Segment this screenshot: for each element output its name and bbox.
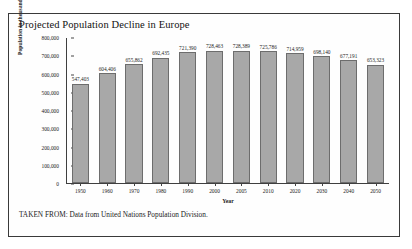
x-tick-label: 2005 [228, 188, 255, 194]
bar [260, 51, 277, 183]
bar-value-label: 728,463 [206, 43, 223, 49]
bar-value-label: 677,191 [340, 53, 357, 59]
x-tick-mark [215, 183, 216, 186]
y-tick-label: 0 [56, 181, 59, 187]
y-tick-label: 800,000 [41, 35, 59, 41]
bar-slot: 721,390 [174, 38, 201, 183]
y-tick-label: 700,000 [41, 53, 59, 59]
bar-slot: 728,463 [201, 38, 228, 183]
y-axis-label: Population in thousands [17, 0, 23, 74]
x-tick-mark [268, 183, 269, 186]
bar-value-label: 604,406 [99, 66, 116, 72]
y-tick-label: 100,000 [41, 163, 59, 169]
bar [313, 56, 330, 183]
bar [179, 52, 196, 183]
bar [286, 53, 303, 183]
x-tick-label: 2010 [255, 188, 282, 194]
x-tick-label: 2040 [335, 188, 362, 194]
bar-slot: 655,862 [121, 38, 148, 183]
bar [233, 51, 250, 183]
x-tick-label: 2000 [201, 188, 228, 194]
figure-frame: Projected Population Decline in Europe P… [8, 13, 400, 237]
bar-slot: 604,406 [94, 38, 121, 183]
axes: 547,403604,406655,862692,435721,390728,4… [66, 38, 389, 184]
bar-value-label: 728,389 [233, 43, 250, 49]
bar-value-label: 725,786 [260, 44, 277, 50]
bar-slot: 653,323 [362, 38, 389, 183]
bar [125, 64, 142, 183]
bar-slot: 725,786 [255, 38, 282, 183]
bar-value-label: 698,140 [313, 49, 330, 55]
y-tick-label: 600,000 [41, 72, 59, 78]
bar [72, 84, 89, 183]
y-tick-label: 200,000 [41, 145, 59, 151]
x-tick-mark [107, 183, 108, 186]
bar-value-label: 721,390 [179, 45, 196, 51]
x-tick-label: 1990 [174, 188, 201, 194]
x-tick-label: 2050 [362, 188, 389, 194]
y-tick-label: 300,000 [41, 126, 59, 132]
bar-slot: 698,140 [308, 38, 335, 183]
x-tick-mark [161, 183, 162, 186]
x-tick-label: 1980 [147, 188, 174, 194]
x-tick-mark [134, 183, 135, 186]
bar-slot: 692,435 [147, 38, 174, 183]
x-axis-tick-labels: 1950196019701980199020002005201020202030… [67, 188, 389, 194]
x-tick-mark [376, 183, 377, 186]
bar [99, 73, 116, 183]
x-tick-mark [80, 183, 81, 186]
x-tick-mark [349, 183, 350, 186]
x-tick-mark [295, 183, 296, 186]
y-axis-tick-labels: 0100,000200,000300,000400,000500,000600,… [27, 38, 63, 184]
x-tick-label: 1960 [94, 188, 121, 194]
bar [340, 60, 357, 183]
bar-slot: 714,959 [282, 38, 309, 183]
bar [152, 58, 169, 184]
bar [367, 65, 384, 183]
x-axis-line [66, 183, 389, 184]
bar-slot: 677,191 [335, 38, 362, 183]
source-note: TAKEN FROM: Data from United Nations Pop… [19, 210, 208, 219]
bar [206, 51, 223, 183]
x-tick-label: 2030 [308, 188, 335, 194]
bar-value-label: 714,959 [286, 46, 303, 52]
x-tick-mark [188, 183, 189, 186]
bar-slot: 728,389 [228, 38, 255, 183]
bar-value-label: 655,862 [125, 57, 142, 63]
plot-area: Population in thousands 0100,000200,0003… [19, 38, 391, 200]
x-tick-label: 1950 [67, 188, 94, 194]
x-axis-label: Year [67, 198, 389, 204]
bar-value-label: 653,323 [367, 57, 384, 63]
x-tick-mark [241, 183, 242, 186]
bar-value-label: 547,403 [72, 76, 89, 82]
x-tick-mark [322, 183, 323, 186]
y-tick-label: 400,000 [41, 108, 59, 114]
bar-series: 547,403604,406655,862692,435721,390728,4… [67, 38, 389, 183]
bar-slot: 547,403 [67, 38, 94, 183]
x-tick-label: 2020 [282, 188, 309, 194]
y-tick-label: 500,000 [41, 90, 59, 96]
bar-value-label: 692,435 [152, 50, 169, 56]
chart-title: Projected Population Decline in Europe [19, 19, 190, 30]
x-tick-label: 1970 [121, 188, 148, 194]
